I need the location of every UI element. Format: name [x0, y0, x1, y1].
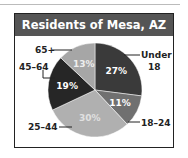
percent-label: 27% [105, 66, 127, 76]
pie-chart: Under 18 18–24 25–44 45–64 65+ 27%11%30%… [0, 0, 188, 158]
label-18-24: 18–24 [141, 118, 171, 128]
label-45-64: 45–64 [19, 62, 49, 72]
percent-label: 19% [56, 81, 78, 91]
label-under18-line2: 18 [148, 62, 161, 72]
label-65: 65+ [35, 45, 55, 55]
label-under18: Under [141, 50, 172, 60]
percent-label: 11% [109, 98, 131, 108]
percent-label: 13% [73, 59, 95, 69]
percent-label: 30% [79, 113, 101, 123]
label-25-44: 25–44 [28, 122, 58, 132]
